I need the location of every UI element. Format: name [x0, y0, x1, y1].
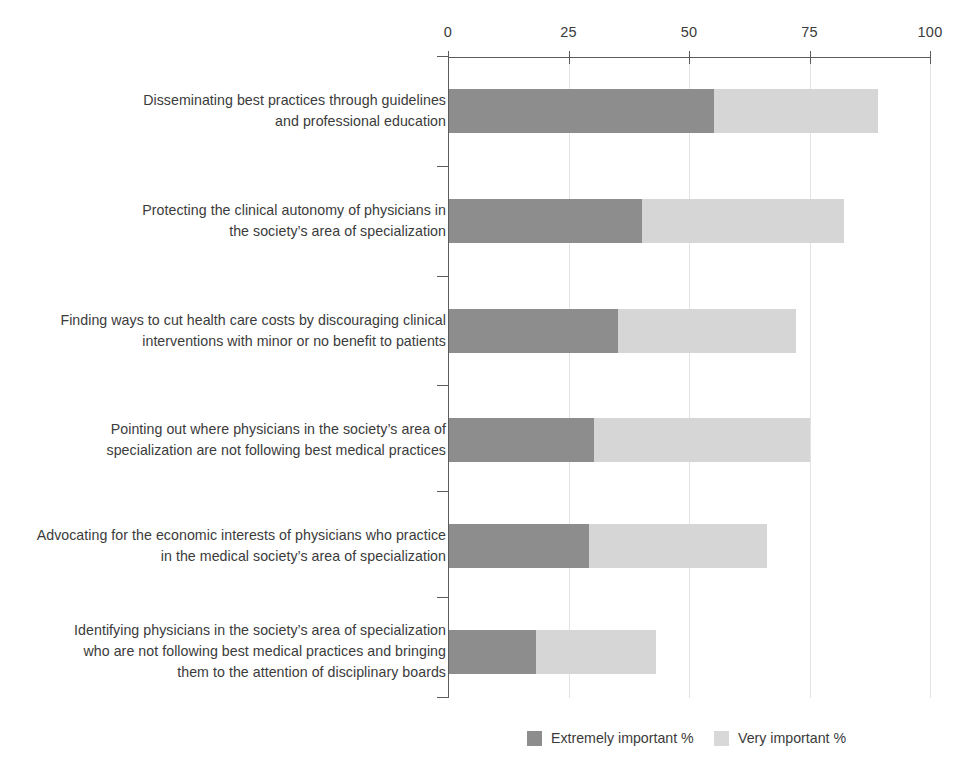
y-axis-tick [437, 276, 449, 277]
y-axis-tick [437, 166, 449, 167]
stacked-bar [449, 630, 656, 674]
legend-label: Very important % [738, 730, 846, 746]
y-axis-tick [437, 385, 449, 386]
bar-segment-extremely-important [449, 418, 594, 462]
category-label: Pointing out where physicians in the soc… [107, 419, 446, 461]
y-axis-line [448, 57, 449, 698]
bar-segment-very-important [618, 309, 796, 353]
y-axis-tick [437, 491, 449, 492]
stacked-bar [449, 199, 844, 243]
x-axis-tick-label-100: 100 [918, 24, 943, 40]
y-axis-tick-end [437, 697, 449, 698]
gridline-25 [569, 58, 570, 698]
bar-segment-extremely-important [449, 199, 642, 243]
y-axis-tick [437, 56, 449, 57]
x-axis-tick-25 [569, 51, 570, 64]
legend-item[interactable]: Very important % [714, 730, 846, 746]
legend-item[interactable]: Extremely important % [527, 730, 694, 746]
stacked-bar [449, 309, 796, 353]
bar-segment-very-important [714, 89, 878, 133]
category-label: Disseminating best practices through gui… [143, 90, 446, 132]
bar-segment-very-important [536, 630, 657, 674]
legend-label: Extremely important % [551, 730, 694, 746]
x-axis-tick-label-25: 25 [560, 24, 577, 40]
gridline-75 [810, 58, 811, 698]
category-label: Protecting the clinical autonomy of phys… [142, 200, 446, 242]
bar-segment-extremely-important [449, 630, 536, 674]
x-axis-tick-label-0: 0 [444, 24, 452, 40]
bar-segment-extremely-important [449, 309, 618, 353]
bar-segment-extremely-important [449, 524, 589, 568]
x-axis-tick-75 [810, 51, 811, 64]
bar-segment-very-important [642, 199, 844, 243]
legend-swatch-extremely [527, 731, 542, 746]
stacked-bar [449, 524, 767, 568]
stacked-bar [449, 418, 811, 462]
x-axis-tick-label-75: 75 [801, 24, 818, 40]
category-label: Advocating for the economic interests of… [37, 525, 446, 567]
x-axis-tick-100 [930, 51, 931, 64]
x-axis-tick-50 [689, 51, 690, 64]
bar-segment-very-important [589, 524, 767, 568]
y-axis-tick [437, 597, 449, 598]
category-label: Finding ways to cut health care costs by… [60, 310, 446, 352]
chart-legend: Extremely important %Very important % [0, 730, 963, 752]
category-label: Identifying physicians in the society’s … [74, 620, 446, 683]
gridline-50 [689, 58, 690, 698]
legend-swatch-very [714, 731, 729, 746]
bar-segment-extremely-important [449, 89, 714, 133]
x-axis-tick-label-50: 50 [681, 24, 698, 40]
stacked-bar-chart: 0255075100 Disseminating best practices … [0, 0, 963, 771]
stacked-bar [449, 89, 878, 133]
bar-segment-very-important [594, 418, 811, 462]
gridline-100 [930, 58, 931, 698]
